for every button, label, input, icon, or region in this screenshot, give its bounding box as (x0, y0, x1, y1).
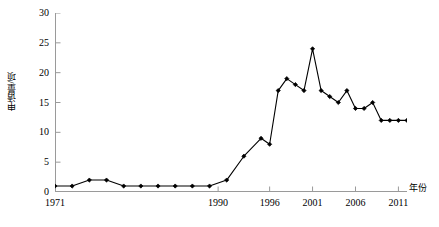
x-axis-tick-label: 2011 (378, 198, 418, 208)
x-axis-tick-label: 1996 (250, 198, 290, 208)
y-axis-title: 申请量/项 (6, 72, 20, 111)
data-point-marker (310, 47, 314, 51)
data-point-marker (405, 118, 407, 122)
data-point-marker (379, 118, 383, 122)
data-point-marker (207, 184, 211, 188)
data-point-marker (139, 184, 143, 188)
data-point-marker (388, 118, 392, 122)
data-point-marker (190, 184, 194, 188)
line-chart: 申请量/项 051015202530 197119901996200120062… (0, 0, 439, 227)
data-point-marker (173, 184, 177, 188)
axes-group (55, 13, 407, 192)
y-axis-tick-label: 20 (27, 68, 49, 78)
x-axis-tick-label: 2006 (335, 198, 375, 208)
markers-group (55, 47, 407, 188)
x-axis-title: 年份 (409, 183, 427, 193)
data-point-marker (156, 184, 160, 188)
x-axis-tick-label: 1971 (35, 198, 75, 208)
data-point-marker (353, 106, 357, 110)
y-axis-tick-label: 10 (27, 127, 49, 137)
y-axis-tick-label: 5 (27, 157, 49, 167)
data-point-marker (87, 178, 91, 182)
data-point-marker (70, 184, 74, 188)
data-point-marker (104, 178, 108, 182)
data-point-marker (122, 184, 126, 188)
y-axis-tick-label: 0 (27, 187, 49, 197)
x-axis-tick-label: 1990 (198, 198, 238, 208)
data-point-marker (55, 184, 57, 188)
series-line (55, 49, 407, 186)
y-axis-tick-label: 30 (27, 8, 49, 18)
series-group (55, 49, 407, 186)
plot-area (55, 13, 407, 192)
data-point-marker (396, 118, 400, 122)
y-axis-tick-label: 15 (27, 98, 49, 108)
x-axis-tick-label: 2001 (293, 198, 333, 208)
y-axis-tick-label: 25 (27, 38, 49, 48)
plot-svg (55, 13, 407, 192)
